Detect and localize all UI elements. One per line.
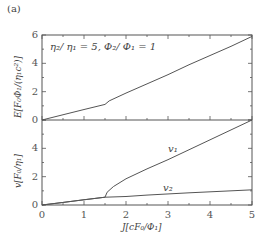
curve-label-v2: v₂: [163, 182, 173, 193]
curve-label-v1: v₁: [168, 143, 178, 154]
y-tick-label-top: 0: [32, 114, 38, 125]
panel-label: (a): [7, 3, 21, 14]
figure: 0123450246024: [0, 0, 267, 245]
y-tick-label-top: 2: [32, 86, 38, 97]
x-tick-label: 4: [207, 209, 213, 220]
series-v2: [42, 190, 252, 205]
x-tick-label: 2: [123, 209, 129, 220]
y-axis-label-bottom: v[F₀/η₁]: [13, 154, 23, 188]
x-tick-label: 5: [249, 209, 255, 220]
y-tick-label-bottom: 4: [32, 142, 38, 153]
series-v1: [42, 120, 252, 205]
y-tick-label-bottom: 0: [32, 199, 38, 210]
y-tick-label-bottom: 2: [32, 171, 38, 182]
parameter-annotation: η₂/ η₁ = 5, Φ₂/ Φ₁ = 1: [50, 41, 156, 52]
x-axis-label: J[cF₀/Φ₁]: [122, 222, 162, 232]
x-tick-label: 3: [165, 209, 171, 220]
x-tick-label: 1: [81, 209, 87, 220]
y-tick-label-top: 6: [32, 29, 38, 40]
y-axis-label-top: E[F₀Φ₁/(η₁c²)]: [13, 56, 23, 118]
y-tick-label-top: 4: [32, 57, 38, 68]
x-tick-label: 0: [39, 209, 45, 220]
